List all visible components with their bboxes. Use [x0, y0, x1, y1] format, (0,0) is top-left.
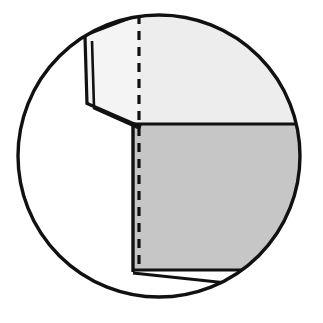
flap-outer-edge [85, 37, 87, 104]
detail-view-drawing [0, 0, 323, 323]
front-gray-panel [133, 124, 301, 270]
figure-root [0, 0, 323, 323]
